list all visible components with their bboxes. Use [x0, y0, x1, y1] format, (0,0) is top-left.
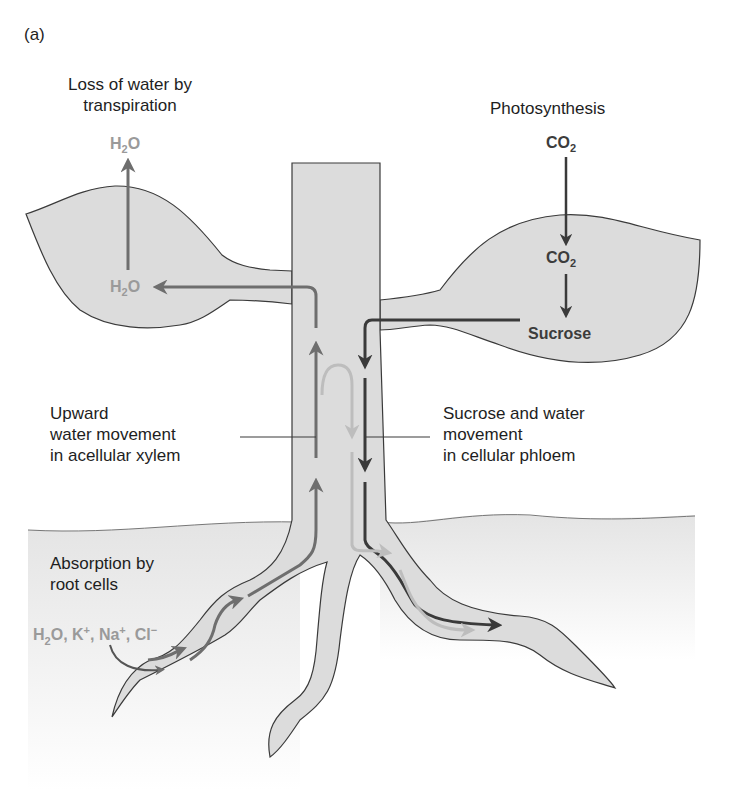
h2o-leaf-label: H2O: [110, 278, 140, 301]
panel-label: (a): [24, 24, 45, 45]
phloem-label: Sucrose and water movement in cellular p…: [443, 403, 585, 466]
h2o-top-label: H2O: [110, 135, 140, 158]
transpiration-line-1: Loss of water by: [40, 74, 220, 95]
absorption-line-2: root cells: [50, 574, 154, 595]
left-leaf: [26, 186, 292, 328]
ions-label: H2O, K+, Na+, Cl−: [33, 621, 157, 650]
xylem-line-2: water movement: [50, 424, 180, 445]
absorption-label: Absorption by root cells: [50, 553, 154, 595]
xylem-label: Upward water movement in acellular xylem: [50, 403, 180, 466]
sucrose-label: Sucrose: [528, 325, 591, 343]
xylem-line-1: Upward: [50, 403, 180, 424]
co2-top-label: CO2: [546, 134, 576, 157]
phloem-line-2: movement: [443, 424, 585, 445]
co2-leaf-label: CO2: [546, 249, 576, 272]
transpiration-label: Loss of water by transpiration: [40, 74, 220, 116]
phloem-line-1: Sucrose and water: [443, 403, 585, 424]
phloem-line-3: in cellular phloem: [443, 445, 585, 466]
photosynthesis-label: Photosynthesis: [490, 98, 605, 119]
xylem-line-3: in acellular xylem: [50, 445, 180, 466]
absorption-line-1: Absorption by: [50, 553, 154, 574]
plant-diagram: [0, 0, 730, 790]
transpiration-line-2: transpiration: [40, 95, 220, 116]
